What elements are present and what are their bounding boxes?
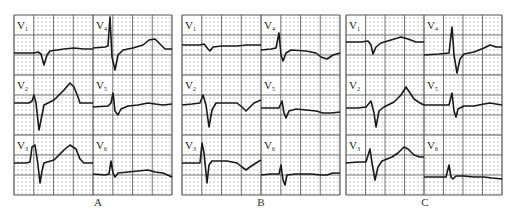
- ecg-panel-a: V1V4V2V5V3V6: [14, 15, 172, 195]
- panel-label-a: A: [88, 196, 108, 208]
- panels-layer: V1V4V2V5V3V6V1V4V2V5V3V6V1V4V2V5V3V6: [14, 15, 502, 195]
- ecg-panel-b: V1V4V2V5V3V6: [182, 15, 340, 195]
- ecg-panel-c: V1V4V2V5V3V6: [346, 15, 502, 195]
- ecg-figure: V1V4V2V5V3V6V1V4V2V5V3V6V1V4V2V5V3V6 A B…: [0, 0, 514, 219]
- panel-label-b: B: [251, 196, 271, 208]
- panel-label-c: C: [415, 196, 435, 208]
- ecg-svg: V1V4V2V5V3V6V1V4V2V5V3V6V1V4V2V5V3V6: [0, 0, 514, 219]
